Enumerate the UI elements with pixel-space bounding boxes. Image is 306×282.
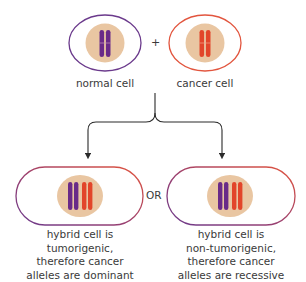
hybrid-cell-dominant — [16, 167, 143, 225]
arrow-to-recessive — [155, 113, 222, 156]
normal-cell — [69, 15, 141, 71]
caption-line: tumorigenic, — [5, 242, 155, 256]
caption-line: alleles are dominant — [5, 269, 155, 282]
cancer-cell-label: cancer cell — [165, 77, 245, 90]
cancer-cell — [169, 15, 241, 71]
hybrid-cell-nucleus — [207, 175, 253, 217]
caption-line: hybrid cell is — [156, 228, 306, 242]
hybrid-cell-recessive — [167, 167, 295, 225]
caption-line: hybrid cell is — [5, 228, 155, 242]
normal-cell-label: normal cell — [65, 77, 145, 90]
caption-line: therefore cancer — [5, 255, 155, 269]
plus-sign: + — [151, 36, 160, 49]
hybrid-cell-nucleus — [57, 175, 103, 217]
branch-arrows — [88, 93, 222, 156]
arrow-to-dominant — [88, 93, 155, 156]
caption-line: therefore cancer — [156, 255, 306, 269]
caption-recessive: hybrid cell is non-tumorigenic, therefor… — [156, 228, 306, 282]
caption-dominant: hybrid cell is tumorigenic, therefore ca… — [5, 228, 155, 282]
or-label: OR — [146, 189, 162, 201]
caption-line: alleles are recessive — [156, 269, 306, 282]
caption-line: non-tumorigenic, — [156, 242, 306, 256]
